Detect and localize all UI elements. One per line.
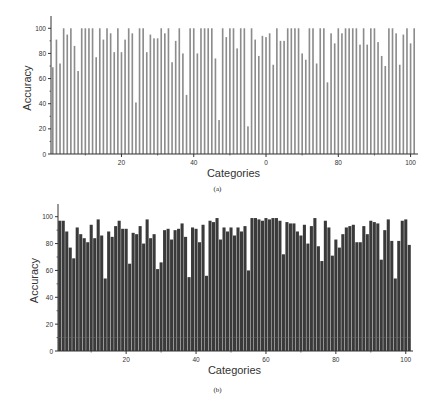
bar: [296, 231, 299, 351]
bar: [408, 245, 411, 351]
bar: [191, 227, 194, 351]
x-tick-label: 80: [335, 159, 343, 166]
bar: [59, 63, 61, 154]
bar: [100, 236, 103, 351]
bar: [124, 40, 126, 154]
bar: [188, 277, 191, 351]
bar: [338, 248, 341, 351]
bar: [291, 28, 293, 154]
bar: [211, 28, 213, 154]
bar: [160, 28, 162, 154]
bar: [355, 242, 358, 351]
bar: [323, 28, 325, 154]
bar: [283, 41, 285, 154]
bars: [52, 28, 415, 154]
bar: [58, 221, 61, 351]
bar: [114, 226, 117, 351]
bar: [226, 231, 229, 351]
bar: [366, 45, 368, 154]
y-axis-label: Accuracy: [21, 65, 33, 111]
bar: [156, 269, 159, 351]
bar: [186, 95, 188, 154]
bar: [280, 41, 282, 154]
x-tick-label: 40: [192, 356, 200, 363]
bar: [247, 126, 249, 154]
bar: [164, 33, 166, 154]
bar: [233, 28, 235, 154]
bar: [324, 221, 327, 351]
bar: [207, 28, 209, 154]
bar: [170, 240, 173, 351]
bar: [401, 221, 404, 351]
bar: [225, 37, 227, 154]
bar: [313, 218, 316, 351]
bar: [153, 234, 156, 351]
bar: [146, 219, 149, 351]
bar: [406, 28, 408, 154]
bar: [189, 28, 191, 154]
bar: [305, 60, 307, 154]
bar: [128, 264, 131, 351]
bar: [334, 240, 337, 351]
bar: [294, 28, 296, 154]
bar: [292, 223, 295, 351]
bar: [275, 218, 278, 351]
x-tick-label: 100: [400, 356, 411, 363]
bar: [310, 226, 313, 351]
bar: [376, 223, 379, 351]
bar: [104, 278, 107, 351]
bar: [383, 230, 386, 351]
bar: [229, 28, 231, 154]
bar: [399, 65, 401, 154]
y-tick-label: 100: [42, 213, 53, 220]
bar: [110, 33, 112, 154]
bar: [247, 270, 250, 351]
bar: [262, 36, 264, 154]
bar: [264, 218, 267, 351]
bar: [244, 28, 246, 154]
bar: [198, 242, 201, 351]
bar: [377, 42, 379, 154]
bar: [77, 71, 79, 154]
bar: [62, 221, 65, 351]
bar: [72, 258, 75, 351]
x-axis-label: Categories: [207, 167, 261, 179]
bar-chart-b: 02040608010020406080100CategoriesAccurac…: [0, 200, 435, 384]
bar: [209, 221, 212, 351]
bar: [331, 256, 334, 351]
bar: [352, 28, 354, 154]
bar: [83, 238, 86, 351]
bar: [316, 63, 318, 154]
bar: [276, 28, 278, 154]
y-tick-label: 40: [39, 100, 47, 107]
bar: [374, 28, 376, 154]
bar: [254, 218, 257, 351]
bar: [298, 28, 300, 154]
bar: [142, 244, 145, 351]
bar: [345, 227, 348, 351]
bar: [289, 223, 292, 351]
bar: [92, 28, 94, 154]
y-tick-label: 0: [42, 151, 46, 158]
bar: [139, 226, 142, 351]
bar: [271, 218, 274, 351]
bar: [56, 40, 58, 154]
bar: [282, 254, 285, 351]
bar: [212, 222, 215, 351]
bar: [381, 56, 383, 154]
bar: [341, 234, 344, 351]
bar: [356, 28, 358, 154]
bar: [90, 225, 93, 351]
bar: [86, 242, 89, 351]
bar: [261, 221, 264, 351]
x-tick-label: 0: [264, 159, 268, 166]
bar: [79, 234, 82, 351]
bar: [327, 82, 329, 154]
bar: [85, 28, 87, 154]
bar: [146, 52, 148, 154]
bar: [88, 28, 90, 154]
chart-panel-b: 02040608010020406080100CategoriesAccurac…: [0, 200, 435, 410]
bar: [366, 234, 369, 351]
bar: [118, 221, 121, 351]
bar: [299, 236, 302, 351]
